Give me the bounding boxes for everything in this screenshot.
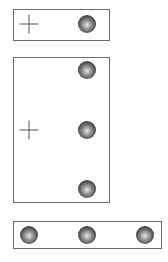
crosshair-icon: [20, 15, 39, 34]
sphere-icon: [78, 180, 96, 198]
sphere-icon: [78, 121, 96, 139]
crosshair-icon: [20, 121, 39, 140]
sphere-icon: [78, 226, 96, 244]
sphere-icon: [78, 61, 96, 79]
sphere-icon: [20, 226, 38, 244]
sphere-icon: [78, 15, 96, 33]
sphere-icon: [136, 226, 154, 244]
